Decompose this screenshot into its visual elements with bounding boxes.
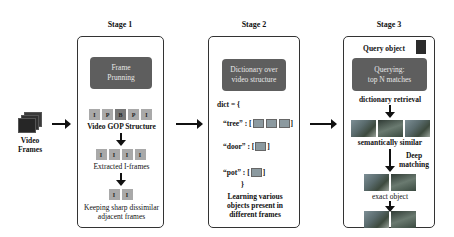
kept-frame: I: [122, 189, 133, 200]
frame-pruning-header: Frame Prunning: [90, 57, 152, 89]
exact-results-row: [344, 174, 436, 191]
iframes-row: I I I I: [80, 149, 163, 160]
arrow-to-stage3: [310, 123, 332, 125]
stage2-box: Dictionary over video structure dict = {…: [208, 36, 300, 228]
tree-thumb: [279, 119, 290, 128]
gop-frame: B: [115, 109, 126, 120]
kept-frames-row: I I: [80, 189, 163, 200]
stage1-title: Stage 1: [75, 20, 165, 29]
stage2-title: Stage 2: [209, 20, 299, 29]
result-image: [405, 120, 430, 137]
result-image: [378, 120, 403, 137]
result-image: [391, 174, 416, 191]
result-image: [391, 211, 416, 228]
gop-frame: P: [102, 109, 113, 120]
gop-frame: I: [141, 109, 152, 120]
gop-label: Video GOP Structure: [78, 122, 165, 131]
kept-frames-label: Keeping sharp dissimilar adjacent frames: [74, 203, 169, 221]
result-image: [364, 174, 389, 191]
tree-thumb: [253, 119, 264, 128]
tree-thumb: [266, 119, 277, 128]
dict-entry-tree: “tree” : [ ]: [223, 119, 293, 128]
kept-frame: I: [109, 189, 120, 200]
gop-structure-row: I P B P I: [80, 109, 163, 120]
arrow-down: [389, 201, 391, 207]
exact-label: exact object: [344, 192, 436, 201]
result-image: [364, 211, 389, 228]
stage1-box: Frame Prunning I P B P I Video GOP Struc…: [77, 36, 164, 228]
arrow-down: [389, 149, 391, 167]
arrow-down: [120, 173, 122, 181]
result-image: [351, 120, 376, 137]
dict-close: }: [241, 180, 244, 189]
dict-entry-door: “door” : [ ]: [223, 142, 270, 151]
video-frame-stack-front: [18, 118, 36, 133]
iframe: I: [122, 149, 133, 160]
dict-open: dict = {: [217, 100, 240, 109]
stage3-box: Query object Querying: top N matches dic…: [343, 36, 435, 228]
arrow-down: [120, 133, 122, 141]
final-results-row: [344, 211, 436, 228]
query-object-label: Query object: [354, 44, 414, 53]
retrieval-label: dictionary retrieval: [344, 95, 436, 104]
query-object-image: [416, 40, 426, 54]
iframes-label: Extracted I-frames: [78, 162, 165, 171]
deep-matching-label: Deep matching: [394, 151, 434, 169]
stage3-title: Stage 3: [344, 20, 434, 29]
door-thumb: [255, 142, 266, 151]
gop-frame: I: [89, 109, 100, 120]
stage2-caption: Learning various objects present in diff…: [209, 192, 301, 219]
iframe: I: [135, 149, 146, 160]
arrow-down: [389, 105, 391, 113]
dictionary-header: Dictionary over video structure: [222, 59, 286, 91]
similar-results-row: [344, 120, 436, 137]
querying-header: Querying: top N matches: [352, 58, 427, 91]
iframe: I: [109, 149, 120, 160]
gop-frame: P: [128, 109, 139, 120]
dict-entry-pot: “pot” : [ ]: [223, 168, 265, 177]
pot-thumb: [251, 168, 262, 177]
arrow-to-stage2: [176, 123, 198, 125]
video-frames-label: Video Frames: [10, 136, 50, 154]
similar-label: semantically similar: [344, 138, 436, 147]
iframe: I: [96, 149, 107, 160]
arrow-to-stage1: [52, 123, 66, 125]
